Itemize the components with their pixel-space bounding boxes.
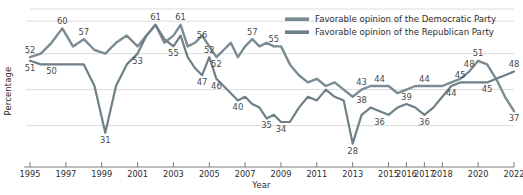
point-label: 50 (46, 66, 57, 76)
point-label: 61 (150, 12, 161, 22)
point-label: 43 (356, 77, 367, 87)
point-label: 39 (401, 92, 412, 102)
point-label: 48 (464, 59, 475, 69)
point-label: 52 (211, 59, 222, 69)
point-label: 56 (197, 30, 208, 40)
x-tick-label: 2022 (504, 169, 523, 179)
x-tick-label: 1999 (91, 169, 112, 179)
x-axis-title: Year (0, 180, 523, 190)
x-tick-label: 2011 (306, 169, 327, 179)
point-label: 44 (419, 74, 430, 84)
point-label: 38 (356, 95, 367, 105)
legend-label: Favorable opinion of the Republican Part… (315, 27, 494, 37)
x-tick-label: 2018 (432, 169, 453, 179)
point-label: 47 (197, 77, 208, 87)
point-label: 60 (57, 16, 68, 26)
point-label: 31 (100, 135, 111, 145)
chart-legend: Favorable opinion of the Democratic Part… (30, 9, 514, 37)
line-chart: 5260576161565257554344444851375150315355… (0, 0, 523, 195)
legend-label: Favorable opinion of the Democratic Part… (315, 14, 496, 24)
chart-canvas: 5260576161565257554344444851375150315355… (0, 0, 523, 195)
point-label: 53 (132, 56, 143, 66)
point-label: 46 (211, 81, 222, 91)
point-label: 44 (374, 74, 385, 84)
point-label: 34 (276, 124, 287, 134)
point-label: 52 (25, 45, 36, 55)
point-label: 28 (347, 146, 358, 156)
y-axis-title: Percentage (3, 61, 13, 121)
legend-swatch (285, 17, 309, 21)
point-label: 36 (374, 117, 385, 127)
point-label: 57 (247, 27, 258, 37)
point-label: 61 (175, 12, 186, 22)
point-label: 45 (482, 84, 493, 94)
point-label: 55 (268, 34, 279, 44)
point-label: 45 (455, 70, 466, 80)
point-label: 48 (509, 59, 520, 69)
legend-swatch (285, 30, 309, 34)
point-label: 40 (233, 102, 244, 112)
point-label: 55 (168, 48, 179, 58)
point-label: 51 (25, 63, 36, 73)
x-tick-label: 2013 (342, 169, 363, 179)
point-label: 52 (204, 45, 215, 55)
x-tick-label: 2003 (163, 169, 184, 179)
point-label: 51 (473, 48, 484, 58)
point-label: 35 (261, 120, 272, 130)
point-label: 36 (419, 117, 430, 127)
point-label: 44 (446, 88, 457, 98)
x-tick-label: 2009 (271, 169, 292, 179)
x-axis: 1995199719992001200320052007200920112013… (20, 162, 523, 179)
point-label: 57 (78, 27, 89, 37)
point-label: 37 (509, 113, 520, 123)
x-tick-label: 2007 (235, 169, 256, 179)
x-tick-label: 2001 (127, 169, 148, 179)
x-tick-label: 1995 (20, 169, 41, 179)
x-tick-label: 2020 (468, 169, 489, 179)
x-tick-label: 1997 (55, 169, 76, 179)
x-tick-label: 2005 (199, 169, 220, 179)
